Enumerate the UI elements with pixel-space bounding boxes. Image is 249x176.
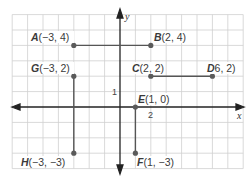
label-e: E(1, 0) <box>138 93 170 105</box>
label-c: C(2, 2) <box>132 62 164 74</box>
label-b: B(2, 4) <box>154 31 186 43</box>
point-e <box>133 104 138 109</box>
y-axis-up-arrow-icon <box>117 9 123 18</box>
label-h: H(−3, −3) <box>21 156 65 168</box>
y-tick-label: 1 <box>112 87 117 97</box>
point-h <box>71 151 76 156</box>
label-f: F(1, −3) <box>137 156 174 168</box>
y-axis-down-arrow-icon <box>117 165 123 174</box>
point-g <box>71 74 76 79</box>
point-a <box>71 43 76 48</box>
label-a: A(−3, 4) <box>30 31 69 43</box>
x-tick-label: 2 <box>148 110 153 120</box>
coordinate-plane: A(−3, 4) B(2, 4) C(2, 2) D6, 2) G(−3, 2)… <box>0 0 249 176</box>
point-c <box>148 74 153 79</box>
point-d <box>210 74 215 79</box>
point-b <box>148 43 153 48</box>
y-axis-label: y <box>124 11 130 22</box>
label-g: G(−3, 2) <box>31 62 70 74</box>
x-axis-label: x <box>236 110 242 121</box>
label-d: D6, 2) <box>207 62 236 74</box>
point-labels: A(−3, 4) B(2, 4) C(2, 2) D6, 2) G(−3, 2)… <box>20 31 241 168</box>
x-axis-left-arrow-icon <box>12 104 20 110</box>
